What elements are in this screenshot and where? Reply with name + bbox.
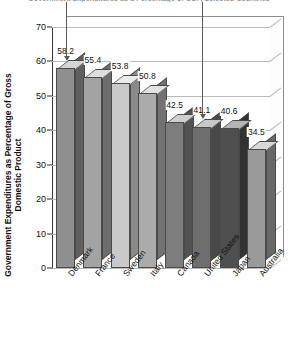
arrow-united-states-icon: [202, 2, 203, 114]
x-axis-labels: DenmarkFranceSwedenItalyCanadaUnited Sta…: [52, 272, 284, 346]
bar-front-face: [138, 93, 157, 268]
bar-series: 58.255.453.850.842.541.140.634.5: [52, 27, 270, 268]
y-tick-label: 0: [41, 263, 52, 273]
y-tick-label: 60: [36, 56, 52, 66]
y-tick-label: 40: [36, 125, 52, 135]
bar-denmark[interactable]: 58.2: [56, 68, 75, 268]
y-axis-title-wrapper: Government Expenditures as Percentage of…: [2, 60, 24, 290]
bar-front-face: [165, 122, 184, 268]
y-tick-label: 10: [36, 229, 52, 239]
bar-front-face: [56, 68, 75, 268]
bar-value-label: 42.5: [165, 100, 184, 110]
y-tick-label: 70: [36, 22, 52, 32]
bar-value-label: 40.6: [220, 106, 239, 116]
bar-canada[interactable]: 42.5: [165, 122, 184, 268]
bar-australia[interactable]: 34.5: [247, 149, 266, 268]
y-tick-label: 20: [36, 194, 52, 204]
plot-right-frame: [283, 16, 284, 257]
bar-front-face: [83, 77, 102, 268]
y-axis-title: Government Expenditures as Percentage of…: [2, 60, 24, 290]
bar-value-label: 50.8: [138, 71, 157, 81]
bar-united-states[interactable]: 41.1: [192, 127, 211, 269]
plot-area: 010203040506070 58.255.453.850.842.541.1…: [52, 27, 284, 268]
bar-front-face: [192, 127, 211, 269]
bar-front-face: [111, 83, 130, 268]
y-tick-label: 50: [36, 91, 52, 101]
plot-depth-edge: [66, 16, 285, 27]
bar-value-label: 53.8: [111, 61, 130, 71]
bar-italy[interactable]: 50.8: [138, 93, 157, 268]
bar-front-face: [247, 149, 266, 268]
arrow-denmark-icon: [66, 2, 67, 56]
bar-france[interactable]: 55.4: [83, 77, 102, 268]
bar-sweden[interactable]: 53.8: [111, 83, 130, 268]
bar-value-label: 34.5: [247, 127, 266, 137]
bar-side-face: [266, 133, 276, 260]
chart-title: Government Expenditures as a Percentage …: [0, 0, 298, 2]
y-tick-label: 30: [36, 160, 52, 170]
bar-value-label: 55.4: [84, 55, 103, 65]
bar-chart: Government Expenditures as a Percentage …: [0, 0, 298, 349]
